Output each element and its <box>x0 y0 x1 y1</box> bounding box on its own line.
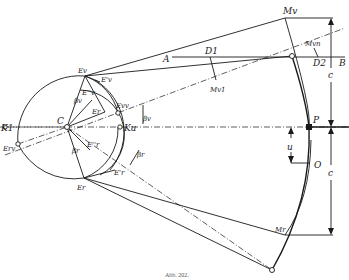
label-mv: Mv <box>282 6 297 16</box>
arrow-c-mid-bot <box>328 127 334 134</box>
label-u: u <box>287 142 293 152</box>
label-mr: Mr <box>274 226 286 234</box>
arrow-c-top <box>328 18 334 25</box>
point-ku <box>118 125 122 129</box>
line-er-erp <box>84 170 115 178</box>
label-c-top: c <box>328 70 333 80</box>
arrow-u-top <box>288 127 294 134</box>
arc-inner-upper <box>292 56 309 127</box>
base-circle-arc-upper <box>18 76 85 144</box>
line-ev-evp <box>85 76 100 82</box>
figure-caption: Abb. 202. <box>165 272 189 278</box>
label-o: O <box>314 160 322 170</box>
point-joint <box>290 54 295 59</box>
label-erv: Erv <box>2 145 15 153</box>
line-er-bottom <box>84 178 272 270</box>
label-d1: D1 <box>204 46 218 56</box>
label-mv1: Mv1 <box>209 86 226 94</box>
label-p: P <box>312 115 320 125</box>
line-ev-mv <box>85 18 285 76</box>
label-d2: D2 <box>312 58 326 68</box>
label-er-prime: E'r <box>113 169 125 177</box>
label-beta-r-inner: βr <box>71 147 80 155</box>
technical-figure: Mv Mvn Mv1 Mr A B D1 D2 Ev E'v E''v Evv … <box>0 0 349 280</box>
point-erv <box>16 142 20 146</box>
label-ku: Ku <box>123 123 137 133</box>
diagram-canvas: Mv Mvn Mv1 Mr A B D1 D2 Ev E'v E''v Evv … <box>0 0 349 280</box>
label-beta-r: βr <box>136 151 145 159</box>
label-er2: Er <box>91 108 101 116</box>
label-beta-v-inner: βv <box>73 97 82 105</box>
label-k1: K1 <box>0 123 13 133</box>
line-ev-joint <box>85 56 292 76</box>
label-ev-dprime: E''v <box>81 89 95 97</box>
ray-evr-c <box>18 127 67 144</box>
line-er-mr <box>84 178 285 235</box>
point-p <box>306 124 312 130</box>
arc-lower-thin <box>285 140 311 235</box>
point-evv <box>116 111 120 115</box>
label-er: Er <box>76 184 86 192</box>
label-c-bottom: c <box>328 168 333 178</box>
label-ev-prime: E'v <box>100 76 112 84</box>
point-c <box>65 125 70 130</box>
label-er-dprime: E''r <box>86 141 100 149</box>
line-d2-mvn <box>314 48 318 57</box>
arrow-u-bottom <box>288 156 294 163</box>
label-c: C <box>57 116 64 126</box>
point-bottom <box>270 268 275 273</box>
label-b: B <box>338 58 346 68</box>
label-mvn: Mvn <box>304 40 321 48</box>
label-beta-v: βv <box>142 115 151 123</box>
arrow-c-mid-top <box>328 120 334 127</box>
arrow-c-bottom <box>328 228 334 235</box>
ray-upper <box>5 28 345 155</box>
label-evv: Evv <box>115 102 129 110</box>
label-a: A <box>162 54 170 64</box>
label-ev: Ev <box>77 67 87 75</box>
line-d1-mv1 <box>210 57 216 80</box>
